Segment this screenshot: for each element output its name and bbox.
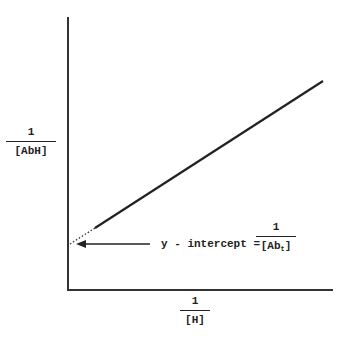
y-axis-label-denominator: [AbH]: [6, 142, 56, 157]
arrowhead-icon: [76, 240, 86, 248]
x-axis-label: 1 [H]: [180, 296, 210, 326]
intercept-numerator: 1: [256, 222, 296, 236]
intercept-annotation-fraction: 1 [Abt]: [256, 222, 296, 253]
data-line: [95, 81, 323, 228]
intercept-denominator: [Abt]: [256, 237, 296, 253]
y-axis-label-numerator: 1: [6, 127, 56, 141]
x-axis-label-denominator: [H]: [180, 311, 210, 326]
x-axis-label-numerator: 1: [180, 296, 210, 310]
intercept-annotation-text: y - intercept =: [161, 238, 267, 250]
y-axis-label: 1 [AbH]: [6, 127, 56, 157]
plot-area: [0, 0, 343, 340]
